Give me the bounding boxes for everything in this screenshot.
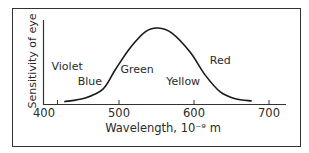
annotation-green: Green [121,63,154,76]
x-tick-label-600: 600 [183,106,205,120]
annotation-yellow: Yellow [165,75,200,88]
x-tick-label-500: 500 [108,106,130,120]
annotation-red: Red [210,54,231,67]
y-axis-label: Sensitivity of eye [26,13,39,108]
x-tick-label-700: 700 [258,106,280,120]
x-axis-label: Wavelength, 10⁻⁹ m [105,121,221,135]
annotation-blue: Blue [78,75,103,88]
sensitivity-chart: 400500600700 VioletBlueGreenYellowRed Wa… [0,0,309,153]
annotation-violet: Violet [52,60,84,73]
